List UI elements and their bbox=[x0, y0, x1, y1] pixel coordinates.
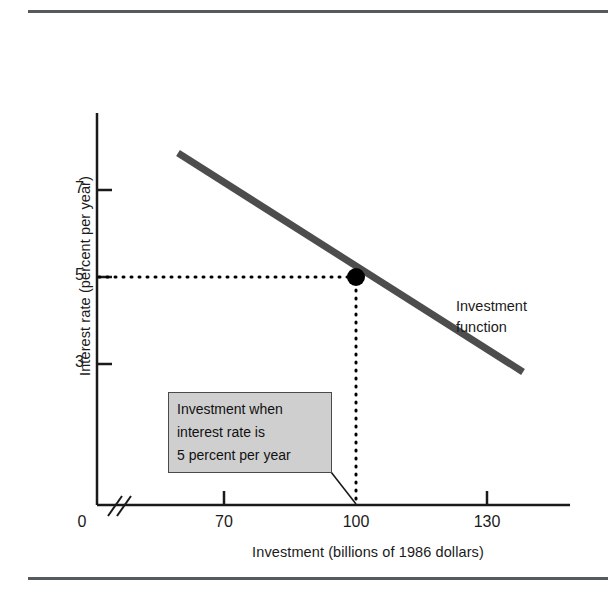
equilibrium-point-marker bbox=[347, 268, 365, 286]
x-tick-label-0: 0 bbox=[52, 513, 112, 531]
series-label: Investment function bbox=[456, 296, 527, 338]
callout-leader-line bbox=[331, 472, 356, 504]
series-label-line-1: Investment bbox=[456, 296, 527, 317]
investment-function-figure: Interest rate (percent per year) Investm… bbox=[0, 0, 608, 590]
callout-line-1: Investment when bbox=[177, 398, 331, 421]
investment-callout-box: Investment when interest rate is 5 perce… bbox=[168, 392, 332, 473]
callout-line-2: interest rate is bbox=[177, 421, 331, 444]
x-tick-label-70: 70 bbox=[194, 513, 254, 531]
y-tick-label-3: 3 bbox=[58, 353, 84, 371]
series-label-line-2: function bbox=[456, 317, 527, 338]
y-tick-label-5: 5 bbox=[58, 266, 84, 284]
investment-function-line bbox=[178, 153, 523, 372]
y-tick-label-7: 7 bbox=[58, 179, 84, 197]
x-tick-label-100: 100 bbox=[326, 513, 386, 531]
x-tick-label-130: 130 bbox=[457, 513, 517, 531]
callout-line-3: 5 percent per year bbox=[177, 444, 331, 467]
x-axis-title: Investment (billions of 1986 dollars) bbox=[198, 544, 538, 560]
